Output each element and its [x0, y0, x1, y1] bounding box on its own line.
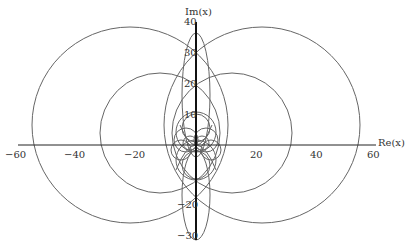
circle-medium-right [172, 73, 292, 193]
circle-large-left [32, 27, 228, 223]
x-axis-label: Re(x) [378, 138, 405, 148]
y-tick: 30 [184, 48, 197, 58]
x-tick: −40 [64, 150, 85, 160]
y-tick: 40 [184, 17, 197, 27]
complex-plane-plot [0, 0, 410, 251]
x-tick: 40 [310, 150, 323, 160]
x-tick: 60 [367, 150, 380, 160]
circle-medium-left [100, 73, 220, 193]
x-tick: 20 [250, 150, 263, 160]
x-tick: −60 [5, 150, 26, 160]
y-tick: −20 [177, 200, 198, 210]
y-tick: 10 [184, 110, 197, 120]
y-tick: 20 [184, 79, 197, 89]
y-tick: −30 [177, 231, 198, 241]
x-tick: −20 [124, 150, 145, 160]
